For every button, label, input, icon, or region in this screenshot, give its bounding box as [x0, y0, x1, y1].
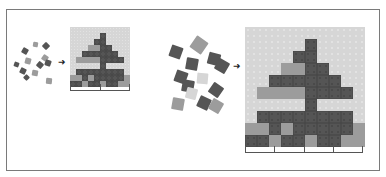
mosaic-cell [293, 51, 305, 63]
mosaic-cell [329, 99, 341, 111]
mosaic-cell [353, 123, 365, 135]
small-scale-bar [70, 84, 130, 91]
mosaic-cell [305, 111, 317, 123]
mosaic-cell [257, 123, 269, 135]
arrow-right-icon: ➜ [58, 58, 66, 67]
mosaic-cell [317, 27, 329, 39]
mosaic-cell [245, 111, 257, 123]
scale-tick [362, 146, 363, 153]
mosaic-cell [317, 123, 329, 135]
mosaic-cell [341, 51, 353, 63]
mosaic-cell [293, 75, 305, 87]
mosaic-cell [281, 123, 293, 135]
mosaic-cell [257, 87, 269, 99]
mosaic-cell [353, 87, 365, 99]
mosaic-cell [281, 75, 293, 87]
mosaic-cell [329, 87, 341, 99]
mosaic-cell [329, 123, 341, 135]
small-brick-mosaic [70, 27, 130, 87]
mosaic-cell [317, 63, 329, 75]
mosaic-cell [245, 99, 257, 111]
mosaic-cell [353, 99, 365, 111]
arrow-right-icon: ➜ [233, 62, 241, 71]
mosaic-cell [293, 39, 305, 51]
mosaic-cell [257, 39, 269, 51]
mosaic-cell [329, 51, 341, 63]
mosaic-cell [305, 87, 317, 99]
mosaic-cell [269, 27, 281, 39]
mosaic-cell [269, 87, 281, 99]
mosaic-cell [293, 27, 305, 39]
mosaic-cell [257, 111, 269, 123]
mosaic-cell [329, 27, 341, 39]
mosaic-cell [269, 123, 281, 135]
mosaic-cell [341, 123, 353, 135]
scattered-brick [46, 78, 53, 85]
mosaic-cell [353, 51, 365, 63]
mosaic-cell [341, 39, 353, 51]
mosaic-cell [353, 39, 365, 51]
mosaic-cell [317, 111, 329, 123]
mosaic-cell [341, 27, 353, 39]
mosaic-cell [269, 39, 281, 51]
mosaic-cell [293, 63, 305, 75]
mosaic-cell [317, 39, 329, 51]
mosaic-cell [353, 75, 365, 87]
mosaic-cell [293, 111, 305, 123]
mosaic-cell [245, 75, 257, 87]
mosaic-cell [269, 99, 281, 111]
large-scale-bar [245, 146, 363, 153]
mosaic-cell [257, 27, 269, 39]
mosaic-cell [257, 63, 269, 75]
mosaic-cell [293, 87, 305, 99]
mosaic-cell [353, 27, 365, 39]
mosaic-cell [281, 63, 293, 75]
scattered-brick [32, 70, 39, 77]
mosaic-cell [269, 51, 281, 63]
mosaic-cell [329, 39, 341, 51]
mosaic-cell [329, 63, 341, 75]
mosaic-cell [257, 75, 269, 87]
mosaic-cell [245, 87, 257, 99]
scale-tick [245, 146, 246, 153]
mosaic-cell [341, 63, 353, 75]
mosaic-cell [281, 111, 293, 123]
mosaic-cell [269, 111, 281, 123]
mosaic-cell [257, 51, 269, 63]
mosaic-cell [245, 51, 257, 63]
mosaic-cell [317, 51, 329, 63]
mosaic-cell [257, 99, 269, 111]
mosaic-cell [341, 99, 353, 111]
mosaic-cell [293, 99, 305, 111]
scattered-brick [33, 42, 39, 48]
mosaic-cell [281, 87, 293, 99]
mosaic-cell [341, 75, 353, 87]
mosaic-cell [293, 123, 305, 135]
mosaic-cell [269, 75, 281, 87]
mosaic-cell [317, 87, 329, 99]
mosaic-cell [281, 27, 293, 39]
scale-tick [274, 146, 275, 153]
scattered-brick [185, 57, 199, 71]
mosaic-cell [305, 39, 317, 51]
scale-tick [129, 84, 130, 91]
mosaic-cell [317, 75, 329, 87]
scale-tick [70, 84, 71, 91]
mosaic-cell [305, 75, 317, 87]
mosaic-cell [329, 75, 341, 87]
mosaic-cell [341, 87, 353, 99]
mosaic-cell [245, 27, 257, 39]
mosaic-cell [353, 111, 365, 123]
mosaic-cell [281, 39, 293, 51]
mosaic-cell [305, 123, 317, 135]
mosaic-cell [353, 63, 365, 75]
mosaic-cell [305, 27, 317, 39]
mosaic-cell [281, 51, 293, 63]
mosaic-cell [305, 63, 317, 75]
scattered-brick [197, 73, 209, 85]
scattered-brick [171, 97, 185, 111]
scale-tick [304, 146, 305, 153]
large-brick-mosaic [245, 27, 365, 147]
mosaic-cell [245, 63, 257, 75]
mosaic-cell [341, 111, 353, 123]
